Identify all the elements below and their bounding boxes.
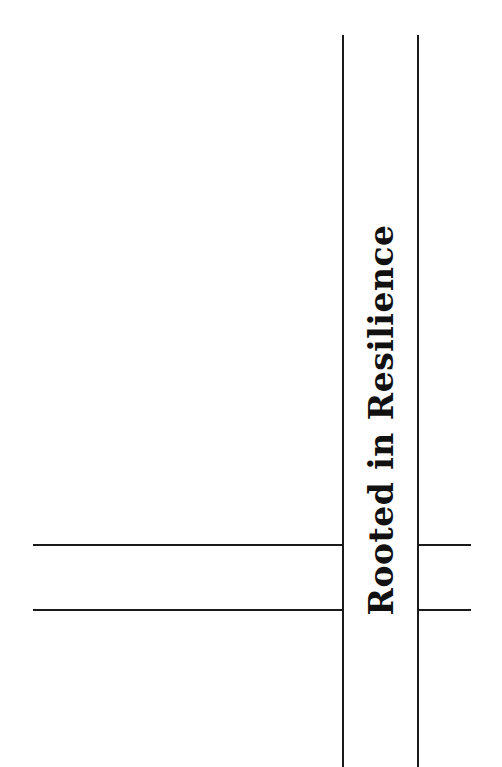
lower-horizontal-line-right — [418, 609, 471, 611]
band-right-line — [417, 35, 419, 767]
lower-horizontal-line-left — [33, 609, 343, 611]
ruled-template-page: Rooted in Resilience — [0, 0, 502, 767]
upper-horizontal-line-left — [33, 544, 343, 546]
band-left-line — [342, 35, 344, 767]
upper-horizontal-line-right — [418, 544, 471, 546]
vertical-title-text: Rooted in Resilience — [362, 185, 402, 655]
